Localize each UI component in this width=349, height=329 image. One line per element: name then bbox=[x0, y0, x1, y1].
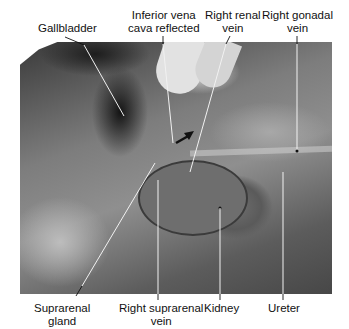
anatomy-photo bbox=[20, 42, 332, 294]
label-right-renal-vein: Right renal vein bbox=[205, 9, 261, 35]
label-gallbladder: Gallbladder bbox=[38, 22, 97, 35]
label-line: Inferior vena bbox=[128, 9, 200, 22]
label-kidney: Kidney bbox=[204, 302, 239, 315]
label-suprarenal-gland: Suprarenal gland bbox=[34, 302, 90, 328]
label-line: Right gonadal bbox=[262, 9, 333, 22]
kidney-shape bbox=[138, 160, 248, 236]
label-line: vein bbox=[119, 315, 203, 328]
label-line: Kidney bbox=[204, 302, 239, 315]
label-line: Right renal bbox=[205, 9, 261, 22]
label-right-gonadal-vein: Right gonadal vein bbox=[262, 9, 333, 35]
label-line: vein bbox=[205, 22, 261, 35]
label-line: gland bbox=[34, 315, 90, 328]
label-inferior-vena-cava: Inferior vena cava reflected bbox=[128, 9, 200, 35]
label-line: Ureter bbox=[268, 302, 300, 315]
label-line: cava reflected bbox=[128, 22, 200, 35]
vein-band bbox=[190, 145, 340, 156]
label-line: Gallbladder bbox=[38, 22, 97, 35]
label-line: vein bbox=[262, 22, 333, 35]
label-right-suprarenal-vein: Right suprarenal vein bbox=[119, 302, 203, 328]
label-ureter: Ureter bbox=[268, 302, 300, 315]
label-line: Right suprarenal bbox=[119, 302, 203, 315]
label-line: Suprarenal bbox=[34, 302, 90, 315]
